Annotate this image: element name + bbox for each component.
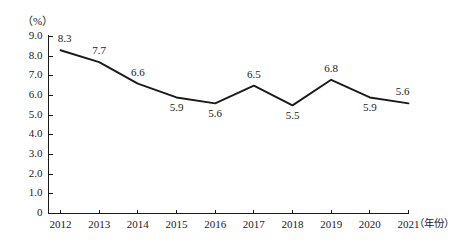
x-axis-tick-label: 2018: [273, 218, 313, 230]
data-point-label: 5.6: [388, 85, 418, 97]
data-point-label: 6.5: [239, 68, 269, 80]
x-axis-tick-label: 2016: [195, 218, 235, 230]
y-axis-tick-label: 7.0: [15, 68, 43, 80]
x-axis-tick-label: 2012: [41, 218, 81, 230]
data-line: [61, 50, 409, 105]
x-axis-tick-label: 2017: [234, 218, 274, 230]
data-point-label: 8.3: [50, 32, 80, 44]
y-axis-tick-label: 8.0: [15, 49, 43, 61]
x-axis-tick-label: 2021: [389, 218, 429, 230]
x-axis-tick-label: 2014: [118, 218, 158, 230]
y-axis-tick-label: 2.0: [15, 167, 43, 179]
line-chart: （%） （年份） 01.02.03.04.05.06.07.08.09.0 20…: [0, 0, 465, 244]
y-axis-tick-label: 9.0: [15, 29, 43, 41]
series-group: [61, 50, 409, 105]
data-point-label: 7.7: [84, 44, 114, 56]
data-point-label: 5.9: [162, 101, 192, 113]
y-axis-tick-label: 3.0: [15, 147, 43, 159]
y-axis-tick-label: 1.0: [15, 186, 43, 198]
data-point-label: 5.6: [200, 107, 230, 119]
x-axis-tick-label: 2015: [157, 218, 197, 230]
x-axis-tick-label: 2019: [311, 218, 351, 230]
data-point-label: 6.6: [123, 66, 153, 78]
y-axis-tick-label: 0: [15, 206, 43, 218]
y-axis-tick-label: 6.0: [15, 88, 43, 100]
data-point-label: 5.9: [355, 101, 385, 113]
data-point-label: 6.8: [316, 62, 346, 74]
y-axis-tick-label: 5.0: [15, 108, 43, 120]
y-axis-tick-label: 4.0: [15, 127, 43, 139]
x-axis-tick-label: 2020: [350, 218, 390, 230]
data-point-label: 5.5: [278, 109, 308, 121]
x-axis-tick-label: 2013: [79, 218, 119, 230]
axes-group: [49, 35, 409, 214]
